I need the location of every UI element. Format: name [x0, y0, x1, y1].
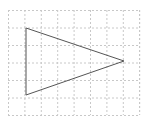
diagram-canvas: [0, 0, 144, 123]
triangle-shape: [26, 28, 124, 95]
